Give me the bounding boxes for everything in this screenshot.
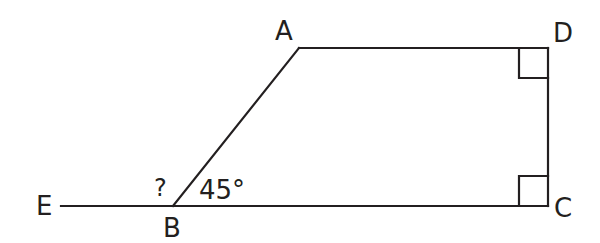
label-angle-45: 45° bbox=[199, 175, 245, 205]
geometry-diagram: A D C E B ? 45° bbox=[0, 0, 600, 243]
label-point-C: C bbox=[554, 193, 572, 223]
right-angle-marker-D bbox=[519, 48, 548, 78]
label-unknown-angle: ? bbox=[154, 174, 167, 202]
label-point-E: E bbox=[36, 191, 52, 221]
label-point-B: B bbox=[163, 213, 181, 243]
label-point-D: D bbox=[553, 18, 573, 48]
right-angle-marker-C bbox=[519, 176, 548, 206]
label-point-A: A bbox=[275, 16, 293, 46]
